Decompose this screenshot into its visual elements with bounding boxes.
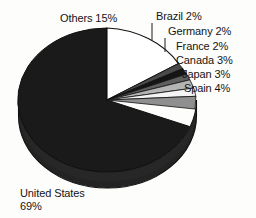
- slice-label-united-states: United States 69%: [20, 187, 85, 213]
- slice-label-germany: Germany 2%: [168, 25, 231, 38]
- pie-chart-figure: Others 15% Brazil 2% Germany 2% France 2…: [0, 0, 256, 218]
- slice-label-brazil: Brazil 2%: [156, 10, 202, 23]
- slice-label-united-states-name: United States: [20, 187, 85, 199]
- slice-label-canada: Canada 3%: [176, 54, 233, 67]
- slice-label-others: Others 15%: [60, 12, 117, 25]
- slice-label-france: France 2%: [176, 40, 228, 53]
- slice-label-spain: Spain 4%: [184, 82, 230, 95]
- slice-label-united-states-percent: 69%: [20, 200, 85, 213]
- slice-label-japan: Japan 3%: [182, 68, 230, 81]
